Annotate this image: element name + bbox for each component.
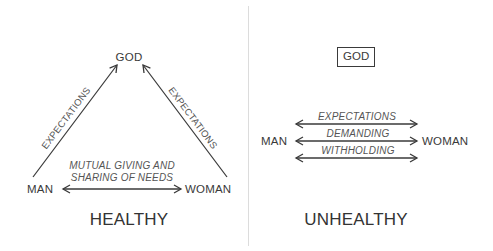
healthy-man-node: MAN bbox=[27, 184, 53, 196]
unhealthy-demanding-label: DEMANDING bbox=[327, 129, 390, 139]
healthy-title: HEALTHY bbox=[90, 211, 169, 228]
arrows-layer bbox=[0, 0, 493, 251]
unhealthy-title: UNHEALTHY bbox=[304, 211, 408, 228]
unhealthy-withholding-label: WITHHOLDING bbox=[321, 146, 394, 156]
unhealthy-expectations-label: EXPECTATIONS bbox=[318, 112, 396, 122]
panel-divider bbox=[248, 6, 249, 246]
healthy-god-node: GOD bbox=[116, 52, 143, 64]
healthy-mutual-label-line1: MUTUAL GIVING AND bbox=[69, 161, 175, 171]
unhealthy-man-node: MAN bbox=[261, 136, 287, 148]
unhealthy-woman-node: WOMAN bbox=[422, 136, 468, 148]
unhealthy-god-node: GOD bbox=[337, 47, 375, 67]
healthy-mutual-label-line2: SHARING OF NEEDS bbox=[71, 173, 173, 183]
healthy-woman-node: WOMAN bbox=[185, 184, 231, 196]
